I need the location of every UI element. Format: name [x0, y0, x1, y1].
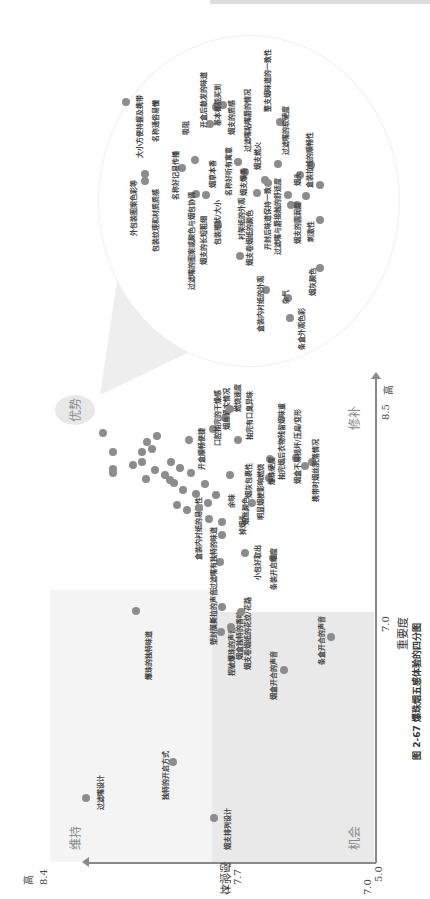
data-point	[217, 628, 225, 636]
data-point	[129, 461, 137, 469]
data-point	[327, 633, 335, 641]
point-label: 吸阻	[180, 121, 190, 135]
data-point	[274, 160, 282, 168]
point-label: 明显烟梗影响燃烧	[255, 464, 265, 520]
point-label: 烟支卷烟纸的颜色	[244, 210, 254, 266]
point-label: 抽完烟后衣物残留烟味重	[276, 403, 286, 480]
quadrant-opportunity-label: 机会	[345, 826, 362, 850]
point-label: 小包好取出	[252, 545, 262, 580]
x-tick-high: 8.5	[380, 404, 391, 420]
point-label: 过滤嘴粘嘴唇的情况	[242, 89, 252, 152]
data-point	[179, 486, 187, 494]
data-point	[195, 504, 203, 512]
point-label: 条装开启难度	[268, 548, 278, 590]
quadrant-maintain-bg	[50, 590, 220, 862]
point-label: 开封后味道保持一致	[262, 187, 272, 250]
data-point	[201, 480, 209, 488]
point-label: 包装纹理和材质质感	[150, 189, 160, 252]
x-tick-low: 5.0	[373, 866, 384, 882]
data-point	[192, 490, 200, 498]
data-point	[316, 181, 324, 189]
point-label: 独特的开启方式	[160, 751, 170, 800]
data-point	[191, 156, 199, 164]
data-point	[284, 191, 292, 199]
data-point	[302, 192, 310, 200]
data-point	[286, 314, 294, 322]
data-point	[205, 515, 213, 523]
x-tick-mid: 7.0	[380, 616, 391, 632]
data-point	[82, 794, 90, 802]
point-label: 烟支的圆润度	[292, 202, 302, 244]
point-label: 爆珠硬度	[266, 457, 276, 485]
data-point	[151, 466, 159, 474]
point-label: 杂气	[280, 290, 290, 304]
point-label: 刺激性	[305, 221, 315, 242]
data-point	[148, 445, 156, 453]
data-point	[173, 501, 181, 509]
data-point	[187, 469, 195, 477]
point-label: 携带时烟丝脱落情况	[310, 439, 320, 502]
point-label: 过滤嘴的软硬度	[280, 106, 290, 155]
data-point	[236, 252, 244, 260]
figure-caption: 图 2-67 爆珠烟五感体验的四分图	[410, 623, 423, 760]
point-label: 名称好听有寓意	[223, 147, 233, 196]
data-point	[132, 607, 140, 615]
point-label: 烟支的质感	[226, 100, 236, 135]
point-label: 塑封膜撕拉的声音	[208, 589, 218, 645]
point-label: 过滤嘴的图案或颜色与烟包协调	[186, 192, 196, 290]
point-label: 过滤嘴有独特的味道	[208, 527, 218, 590]
data-point	[109, 448, 117, 456]
x-axis-arrow-icon	[371, 372, 381, 379]
data-point	[234, 436, 242, 444]
point-label: 烟支排列设计	[222, 808, 232, 850]
quadrant-maintain-label: 维持	[66, 826, 83, 850]
quadrant-advantage-label: 优势	[66, 398, 83, 422]
point-label: 烟盒开合的声音	[268, 651, 278, 700]
point-label: 烟支的长短粗细	[198, 216, 208, 265]
point-label: 余味	[226, 494, 236, 508]
data-point	[109, 469, 117, 477]
point-label: 过滤嘴设计	[95, 775, 105, 810]
point-label: 名称通俗易懂	[150, 100, 160, 142]
point-label: 条盒外观色彩	[296, 308, 306, 350]
data-point	[138, 448, 146, 456]
point-label: 盒装内衬纸的外观	[255, 276, 265, 332]
data-point	[169, 758, 177, 766]
x-axis-name: 重要度	[394, 617, 410, 650]
point-label: 包装形状/大小	[212, 200, 222, 245]
data-point	[170, 479, 178, 487]
point-label: 开盒后散发的味道	[198, 72, 208, 128]
data-point	[218, 518, 226, 526]
data-point	[142, 475, 150, 483]
data-point	[253, 189, 261, 197]
data-point	[141, 177, 149, 185]
point-label: 基本都能买到	[212, 84, 222, 126]
data-point	[316, 216, 324, 224]
data-point	[316, 264, 324, 272]
point-label: 大小方便持握及携带	[134, 95, 144, 158]
x-axis-line	[375, 377, 377, 863]
point-label: 过滤嘴与唇接触的舒适度	[272, 178, 282, 255]
point-label: 烟灰颜色	[307, 268, 317, 296]
data-point	[153, 432, 161, 440]
data-point	[264, 179, 272, 187]
data-point	[212, 491, 220, 499]
data-point	[138, 458, 146, 466]
point-label: 燃烧速度	[232, 384, 242, 412]
magnified-cluster-circle	[98, 35, 400, 367]
data-point	[122, 98, 130, 106]
point-label: 开盒顺畅便捷	[196, 428, 206, 470]
data-point	[210, 814, 218, 822]
point-label: 烟支爆香	[238, 168, 248, 196]
point-label: 条盒开合的声音	[316, 616, 326, 665]
data-point	[167, 458, 175, 466]
y-tick-low: 7.0	[362, 879, 373, 895]
data-point	[176, 464, 184, 472]
point-label: 名称好记易传播	[170, 151, 180, 200]
point-label: 烟支燃火	[252, 142, 262, 170]
y-high-label: 高	[20, 875, 35, 885]
point-label: 烟草本香	[207, 160, 217, 188]
x-high-label: 高	[380, 385, 395, 395]
data-point	[234, 158, 242, 166]
data-point	[185, 436, 193, 444]
